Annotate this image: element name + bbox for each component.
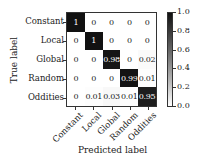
matrix-cell: 1	[85, 32, 103, 51]
colorbar-tick-label: 0.6	[177, 45, 190, 54]
matrix-cell: 0	[103, 32, 121, 51]
matrix-cell: 0	[138, 13, 156, 32]
colorbar-tick-mark	[173, 31, 176, 32]
matrix-cell: 0	[85, 13, 103, 32]
matrix-cell: 0	[120, 32, 138, 51]
x-tick-mark	[130, 107, 131, 110]
colorbar-tick-label: 1.0	[177, 7, 190, 16]
colorbar-tick-label: 0.8	[177, 26, 190, 35]
colorbar-tick-label: 0.2	[177, 82, 190, 91]
y-tick-label: Constant	[25, 16, 64, 26]
colorbar-tick-label: 0.0	[177, 101, 190, 110]
x-tick-mark	[75, 107, 76, 110]
colorbar-tick-mark	[173, 87, 176, 88]
colorbar-tick-mark	[173, 106, 176, 107]
matrix-cell: 0	[67, 87, 85, 106]
matrix-cell: 0.99	[120, 69, 138, 88]
matrix-cell: 0	[120, 50, 138, 69]
matrix-cell: 0	[103, 69, 121, 88]
colorbar-tick-label: 0.4	[177, 63, 190, 72]
x-tick-mark	[93, 107, 94, 110]
colorbar-tick-mark	[173, 68, 176, 69]
x-tick-mark	[148, 107, 149, 110]
colorbar-tick-mark	[173, 12, 176, 13]
matrix-cell: 0	[67, 50, 85, 69]
matrix-cell: 0.95	[138, 87, 156, 106]
y-tick-label: Random	[28, 73, 64, 83]
matrix-cell: 0.03	[103, 87, 121, 106]
matrix-cell: 0.98	[103, 50, 121, 69]
colorbar	[167, 12, 173, 107]
colorbar-tick-mark	[173, 50, 176, 51]
x-tick-mark	[112, 107, 113, 110]
matrix-cell: 0	[138, 32, 156, 51]
matrix-cell: 1	[67, 13, 85, 32]
matrix-cell: 0.02	[138, 50, 156, 69]
y-tick-label: Oddities	[28, 92, 64, 102]
matrix-cell: 0	[85, 69, 103, 88]
y-tick-label: Local	[41, 35, 64, 45]
matrix-cell: 0	[120, 13, 138, 32]
matrix-cell: 0	[103, 13, 121, 32]
x-axis-label: Predicted label	[78, 145, 147, 155]
y-axis-label: True label	[9, 37, 19, 84]
matrix-cell: 0.01	[85, 87, 103, 106]
matrix-grid: 1000001000000.9800.020000.990.0100.010.0…	[66, 12, 157, 107]
matrix-cell: 0.01	[138, 69, 156, 88]
matrix-cell: 0	[67, 69, 85, 88]
matrix-cell: 0	[67, 32, 85, 51]
y-tick-label: Global	[36, 54, 64, 64]
matrix-cell: 0.01	[120, 87, 138, 106]
matrix-cell: 0	[85, 50, 103, 69]
